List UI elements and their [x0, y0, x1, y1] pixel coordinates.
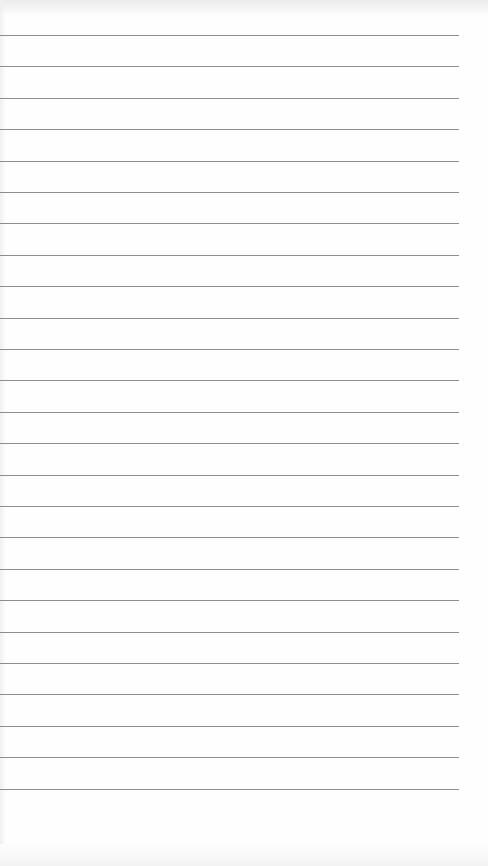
- ruled-line: [0, 443, 459, 444]
- bottom-edge-shadow: [0, 844, 488, 866]
- ruled-line: [0, 600, 459, 601]
- ruled-line: [0, 318, 459, 319]
- ruled-line: [0, 380, 459, 381]
- ruled-line: [0, 35, 459, 36]
- ruled-line: [0, 192, 459, 193]
- ruled-line: [0, 66, 459, 67]
- ruled-line: [0, 129, 459, 130]
- ruled-line: [0, 161, 459, 162]
- ruled-line: [0, 349, 459, 350]
- ruled-line: [0, 789, 459, 790]
- ruled-line: [0, 726, 459, 727]
- ruled-line: [0, 255, 459, 256]
- ruled-line: [0, 98, 459, 99]
- ruled-line: [0, 286, 459, 287]
- ruled-line: [0, 569, 459, 570]
- ruled-line: [0, 632, 459, 633]
- ruled-line: [0, 223, 459, 224]
- ruled-line: [0, 506, 459, 507]
- notepad-page: [0, 0, 488, 866]
- ruled-line: [0, 663, 459, 664]
- ruled-line: [0, 475, 459, 476]
- ruled-line: [0, 757, 459, 758]
- top-edge-shadow: [0, 0, 488, 14]
- ruled-line: [0, 694, 459, 695]
- ruled-line: [0, 412, 459, 413]
- ruled-line: [0, 537, 459, 538]
